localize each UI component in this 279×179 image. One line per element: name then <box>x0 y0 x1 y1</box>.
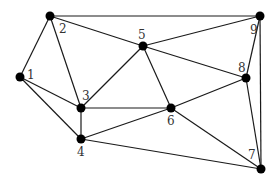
node-label-8: 8 <box>238 61 246 75</box>
node-5 <box>139 42 148 51</box>
edge-3-5 <box>81 46 143 108</box>
edge-6-8 <box>171 78 246 108</box>
node-label-2: 2 <box>59 22 67 36</box>
graph-diagram: 123456789 <box>0 0 279 179</box>
node-4 <box>77 135 86 144</box>
node-label-7: 7 <box>248 148 256 162</box>
node-7 <box>257 165 266 174</box>
node-label-1: 1 <box>27 68 35 82</box>
node-label-6: 6 <box>167 114 175 128</box>
edge-9-7 <box>260 16 261 169</box>
node-1 <box>16 73 25 82</box>
edge-5-9 <box>143 16 260 46</box>
node-label-4: 4 <box>77 145 85 159</box>
edge-1-2 <box>20 16 50 77</box>
edge-4-6 <box>81 108 171 139</box>
edge-4-7 <box>81 139 261 169</box>
node-9 <box>256 12 265 21</box>
node-6 <box>167 104 176 113</box>
edge-5-6 <box>143 46 171 108</box>
node-label-3: 3 <box>82 89 90 103</box>
node-3 <box>77 104 86 113</box>
edge-5-8 <box>143 46 246 78</box>
node-2 <box>46 12 55 21</box>
node-label-5: 5 <box>138 28 146 42</box>
node-label-9: 9 <box>250 23 258 37</box>
edge-1-4 <box>20 77 81 139</box>
